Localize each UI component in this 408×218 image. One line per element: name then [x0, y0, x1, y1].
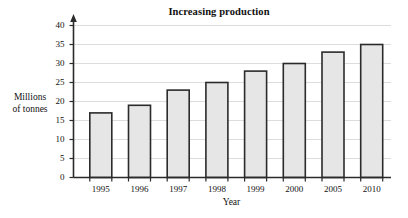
bar [167, 90, 189, 177]
y-tick-label: 5 [45, 154, 65, 163]
x-tick-label: 2000 [274, 184, 314, 194]
bar [322, 52, 344, 177]
x-tick-label: 2010 [352, 184, 392, 194]
up-arrow-icon [70, 14, 77, 22]
x-tick-label: 1995 [81, 184, 121, 194]
x-tick-label: 2005 [313, 184, 353, 194]
x-tick-label: 1999 [236, 184, 276, 194]
y-tick-label: 10 [45, 135, 65, 144]
y-tick-label: 40 [45, 21, 65, 30]
bar-chart: Increasing production Millions of tonnes… [0, 0, 408, 218]
y-tick-label: 25 [45, 78, 65, 87]
bar [90, 113, 112, 178]
bar [283, 64, 305, 178]
bar [361, 45, 383, 178]
x-tick-label: 1998 [197, 184, 237, 194]
bars-group [90, 45, 383, 178]
y-tick-label: 0 [45, 173, 65, 182]
y-tick-label: 20 [45, 97, 65, 106]
y-tick-label: 15 [45, 116, 65, 125]
y-tick-label: 30 [45, 59, 65, 68]
x-tick-label: 1996 [120, 184, 160, 194]
y-tick-label: 35 [45, 40, 65, 49]
bar [245, 71, 267, 177]
bar [206, 83, 228, 178]
bar [129, 105, 151, 177]
x-tick-label: 1997 [158, 184, 198, 194]
